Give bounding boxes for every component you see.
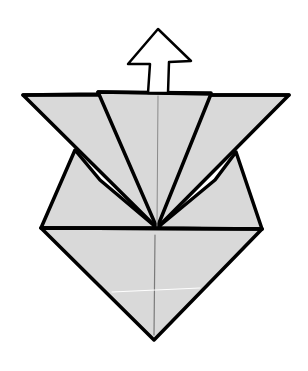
horizontal-fold-edge (41, 228, 262, 229)
bottom-triangle (41, 228, 262, 340)
paper-shape (23, 92, 289, 340)
origami-diagram (0, 0, 308, 371)
up-arrow-icon (128, 29, 191, 93)
